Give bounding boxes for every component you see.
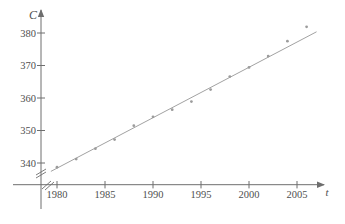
x-tick-label: 2005 — [287, 189, 308, 200]
x-axis-arrowhead-icon — [317, 182, 325, 188]
x-tick-label: 1985 — [95, 189, 116, 200]
data-point — [286, 40, 289, 43]
y-tick-label: 360 — [20, 93, 36, 104]
data-point — [171, 108, 174, 111]
data-point — [209, 88, 212, 91]
y-tick-label: 340 — [20, 158, 36, 169]
y-tick-label: 370 — [20, 60, 36, 71]
data-point — [228, 75, 231, 78]
y-axis-label: C — [29, 8, 38, 22]
chart-canvas: Ct34035036037038019801985199019952000200… — [0, 0, 345, 224]
data-point — [190, 100, 193, 103]
data-point — [305, 25, 308, 28]
data-point — [94, 147, 97, 150]
data-point — [132, 124, 135, 127]
x-axis-label: t — [325, 186, 329, 198]
co2-scatter-plot-figure: Ct34035036037038019801985199019952000200… — [0, 0, 345, 224]
trend-line — [51, 32, 316, 171]
x-tick-label: 1990 — [143, 189, 164, 200]
data-point — [152, 115, 155, 118]
x-tick-label: 1980 — [47, 189, 68, 200]
data-point — [75, 158, 78, 161]
data-point — [267, 55, 270, 58]
x-tick-label: 1995 — [191, 189, 212, 200]
data-point — [56, 166, 59, 169]
data-point — [248, 66, 251, 69]
x-tick-label: 2000 — [239, 189, 260, 200]
y-axis-arrowhead-icon — [38, 9, 44, 17]
data-point — [113, 138, 116, 141]
y-tick-label: 380 — [20, 28, 36, 39]
y-tick-label: 350 — [20, 125, 36, 136]
